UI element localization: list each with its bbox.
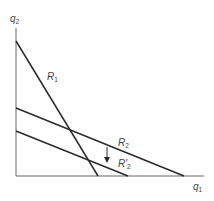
x-axis-label: q1: [193, 181, 203, 193]
y-axis-label: q2: [10, 13, 20, 25]
arrow-head-icon: [104, 157, 110, 163]
line-r2-prime: [16, 131, 128, 176]
label-r2: R2: [118, 137, 129, 149]
label-r1: R1: [47, 71, 58, 83]
label-r2-prime: R′2: [118, 158, 131, 170]
line-r2: [16, 108, 184, 176]
reaction-curve-diagram: q2 q1 R1 R2 R′2: [0, 0, 214, 201]
line-r1: [16, 41, 98, 176]
